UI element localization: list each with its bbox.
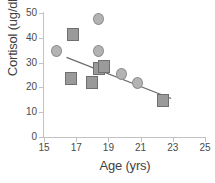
x-axis-title: Age (yrs) xyxy=(44,158,206,173)
y-tick-label: 30 xyxy=(13,58,37,68)
data-point-square xyxy=(65,72,77,85)
y-tick-label: 50 xyxy=(13,8,37,18)
y-tick-label: 40 xyxy=(13,33,37,43)
scatter-chart: Cortisol (ug/dl) Age (yrs) 01020304050 1… xyxy=(0,0,215,183)
x-tick-label: 23 xyxy=(161,143,185,153)
x-axis-line xyxy=(43,137,206,138)
data-point-square xyxy=(157,94,169,107)
x-tick-label: 19 xyxy=(96,143,120,153)
x-tick-label: 25 xyxy=(193,143,215,153)
y-tick-label: 20 xyxy=(13,82,37,92)
data-point-square xyxy=(67,28,79,41)
data-point-circle xyxy=(116,68,127,80)
x-tick-label: 15 xyxy=(32,143,56,153)
y-tick-label: 10 xyxy=(13,107,37,117)
x-tick-label: 17 xyxy=(64,143,88,153)
data-point-square xyxy=(98,60,110,73)
x-tick-label: 21 xyxy=(129,143,153,153)
data-point-square xyxy=(86,76,98,89)
y-tick-label: 0 xyxy=(13,132,37,142)
